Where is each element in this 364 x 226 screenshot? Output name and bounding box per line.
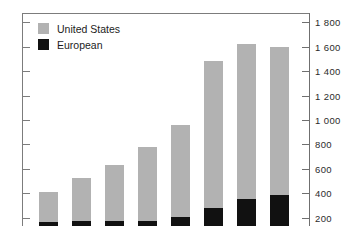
y-tick-mark-left xyxy=(22,22,30,23)
bar-column xyxy=(204,61,223,226)
y-tick-mark xyxy=(302,120,310,121)
bar-segment-european xyxy=(138,221,157,226)
y-tick-label: 600 xyxy=(315,163,332,174)
legend-item: European xyxy=(38,38,120,51)
y-tick-label: 400 xyxy=(315,188,332,199)
bar-segment-european xyxy=(204,208,223,226)
legend-item: United States xyxy=(38,22,120,35)
y-tick-label: 1 600 xyxy=(315,41,341,52)
bar-segment-united-states xyxy=(237,44,256,200)
bar-segment-european xyxy=(270,195,289,226)
y-tick-mark-left xyxy=(22,218,30,219)
y-tick-mark-left xyxy=(22,47,30,48)
y-tick-mark xyxy=(302,71,310,72)
bar-segment-united-states xyxy=(138,147,157,221)
y-tick-label: 1 800 xyxy=(315,17,341,28)
bar-segment-european xyxy=(237,199,256,226)
legend: United States European xyxy=(38,22,120,54)
bar-column xyxy=(39,192,58,226)
bar-column xyxy=(171,125,190,226)
y-tick-label: 1 000 xyxy=(315,115,341,126)
y-tick-mark xyxy=(302,169,310,170)
bar-segment-european xyxy=(39,222,58,226)
bar-column xyxy=(72,178,91,226)
bar-segment-united-states xyxy=(105,165,124,221)
bar-segment-united-states xyxy=(72,178,91,221)
y-tick-mark xyxy=(302,96,310,97)
bar-segment-united-states xyxy=(270,47,289,195)
legend-label-united-states: United States xyxy=(57,23,120,35)
bar-column xyxy=(138,147,157,226)
y-tick-mark-left xyxy=(22,193,30,194)
y-tick-mark xyxy=(302,22,310,23)
bar-segment-european xyxy=(171,217,190,226)
bar-chart: 1 8001 6001 4001 2001 000800600400200 Un… xyxy=(0,0,364,226)
y-tick-mark xyxy=(302,144,310,145)
bar-column xyxy=(270,47,289,226)
y-tick-mark-left xyxy=(22,120,30,121)
bar-segment-european xyxy=(72,221,91,226)
plot-top-border xyxy=(22,13,310,14)
y-tick-mark xyxy=(302,193,310,194)
bar-segment-united-states xyxy=(171,125,190,217)
bar-column xyxy=(237,44,256,226)
bar-segment-european xyxy=(105,221,124,226)
bar-segment-united-states xyxy=(204,61,223,208)
bar-segment-united-states xyxy=(39,192,58,222)
legend-label-european: European xyxy=(57,39,103,51)
y-tick-mark-left xyxy=(22,169,30,170)
y-tick-mark xyxy=(302,47,310,48)
y-tick-label: 200 xyxy=(315,212,332,223)
y-tick-label: 1 400 xyxy=(315,66,341,77)
y-tick-label: 800 xyxy=(315,139,332,150)
y-tick-label: 1 200 xyxy=(315,90,341,101)
y-tick-mark xyxy=(302,218,310,219)
y-tick-mark-left xyxy=(22,96,30,97)
legend-swatch-european xyxy=(38,39,49,50)
legend-swatch-united-states xyxy=(38,23,49,34)
bar-column xyxy=(105,165,124,226)
y-tick-mark-left xyxy=(22,144,30,145)
y-tick-mark-left xyxy=(22,71,30,72)
